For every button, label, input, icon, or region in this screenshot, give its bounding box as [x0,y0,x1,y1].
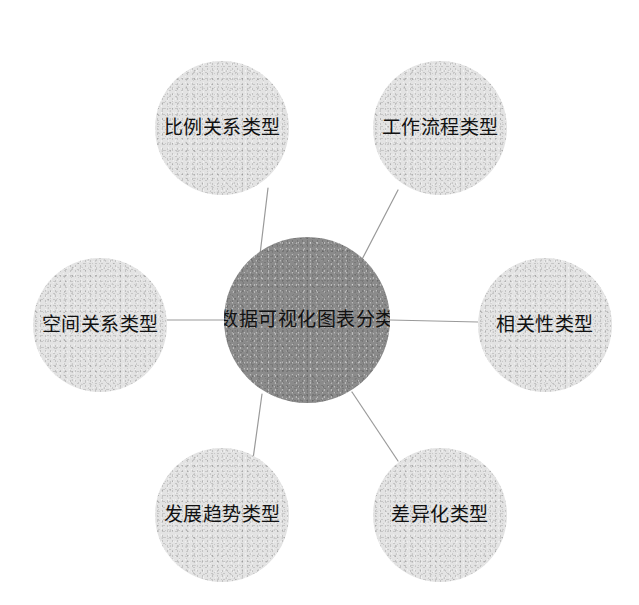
node-center-hub[interactable]: 数据可视化图表分类 [224,237,390,403]
node-label: 相关性类型 [496,314,594,337]
diagram-canvas: 比例关系类型 工作流程类型 空间关系类型 相关性类型 发展趋势类型 差异化类型 … [0,0,639,605]
connector-center-to-bottom-left [253,394,262,459]
node-development-trend[interactable]: 发展趋势类型 [155,448,289,582]
node-label: 工作流程类型 [382,117,499,140]
node-label: 空间关系类型 [42,314,159,337]
node-proportion-relation[interactable]: 比例关系类型 [155,61,289,195]
node-label: 差异化类型 [391,504,489,527]
node-center-label: 数据可视化图表分类 [224,309,390,332]
node-label: 比例关系类型 [164,117,281,140]
node-workflow-process[interactable]: 工作流程类型 [373,61,507,195]
connector-center-to-right [390,320,478,322]
node-label: 发展趋势类型 [164,504,281,527]
node-correlation[interactable]: 相关性类型 [478,258,612,392]
connector-center-to-bottom-right [352,392,398,461]
node-spatial-relation[interactable]: 空间关系类型 [33,258,167,392]
node-differentiation[interactable]: 差异化类型 [373,448,507,582]
